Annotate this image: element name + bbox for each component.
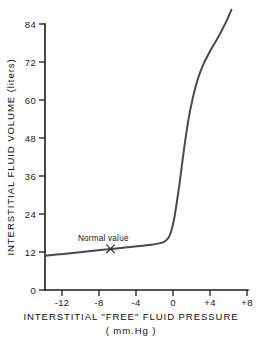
y-tick-label-24: 24 (25, 209, 36, 220)
x-tick-label-plus4: +4 (204, 297, 215, 308)
y-tick-label-72: 72 (25, 57, 36, 68)
chart-figure: 84 72 60 48 36 24 12 0 -12 -8 -4 0 +4 +8 (0, 0, 262, 339)
y-tick-label-84: 84 (25, 19, 36, 30)
x-axis-units: ( mm.Hg ) (106, 325, 157, 336)
x-tick-label-0: 0 (170, 297, 176, 308)
data-curve-interstitial-fluid-volume (45, 10, 231, 256)
y-tick-label-36: 36 (25, 171, 36, 182)
y-axis-title: INTERSTITIAL FLUID VOLUME (liters) (5, 58, 16, 255)
y-tick-label-60: 60 (25, 95, 36, 106)
x-axis-ticks (62, 290, 247, 296)
chart-canvas: 84 72 60 48 36 24 12 0 -12 -8 -4 0 +4 +8 (0, 0, 262, 339)
y-tick-label-0: 0 (30, 285, 36, 296)
x-tick-label-minus4: -4 (131, 297, 140, 308)
x-tick-label-minus12: -12 (55, 297, 70, 308)
annotation-normal-value-label: Normal value (78, 234, 129, 243)
y-tick-label-48: 48 (25, 133, 36, 144)
y-axis-ticks (39, 24, 45, 290)
x-tick-label-plus8: +8 (241, 297, 252, 308)
x-tick-label-minus8: -8 (94, 297, 103, 308)
y-tick-label-12: 12 (25, 247, 36, 258)
x-axis-title: INTERSTITIAL "FREE" FLUID PRESSURE (23, 311, 238, 322)
